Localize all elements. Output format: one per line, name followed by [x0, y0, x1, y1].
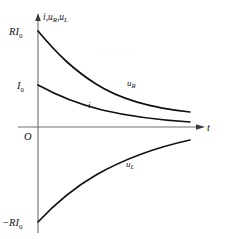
y-tick-neg-ri0-sub: 0	[19, 223, 23, 230]
y-tick-i0-sub: 0	[21, 86, 25, 93]
curve-label-u-r-sub: R	[131, 82, 137, 89]
y-axis-label: i,uR,uL	[43, 12, 68, 23]
curve-u-l	[38, 140, 190, 222]
y-tick-ri0-main: RI	[8, 26, 19, 37]
curve-label-u-l: uL	[126, 159, 135, 170]
y-tick-label-ri0: RI0	[8, 26, 23, 39]
y-axis-arrowhead	[35, 13, 41, 21]
y-tick-neg-ri0-main: −RI	[2, 217, 19, 228]
figure-container: ············ i,uR,uL t O RI0 I0 −RI0 uR …	[0, 0, 228, 239]
y-tick-label-neg-ri0: −RI0	[2, 217, 23, 230]
y-axis-label-main: i,u	[43, 12, 53, 22]
axes-group	[18, 13, 205, 233]
chart-svg: i,uR,uL t O RI0 I0 −RI0 uR i uL	[0, 0, 228, 239]
x-axis-arrowhead	[196, 124, 205, 130]
y-tick-ri0-sub: 0	[19, 32, 23, 39]
origin-label: O	[24, 131, 32, 142]
curve-label-i: i	[88, 100, 91, 110]
y-tick-label-i0: I0	[16, 80, 25, 93]
y-axis-label-sub-l: L	[63, 16, 68, 23]
curve-label-u-l-sub: L	[130, 163, 135, 170]
x-axis-label: t	[207, 122, 211, 133]
curve-label-u-r: uR	[127, 78, 137, 89]
curve-u-r	[38, 31, 190, 112]
curve-i	[38, 85, 190, 122]
